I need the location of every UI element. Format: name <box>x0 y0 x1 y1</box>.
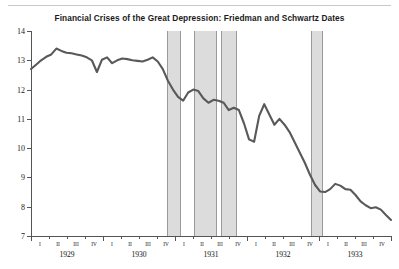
money-stock-polyline <box>31 49 391 220</box>
chart-page: Financial Crises of the Great Depression… <box>0 0 399 269</box>
data-line-series <box>0 0 399 269</box>
